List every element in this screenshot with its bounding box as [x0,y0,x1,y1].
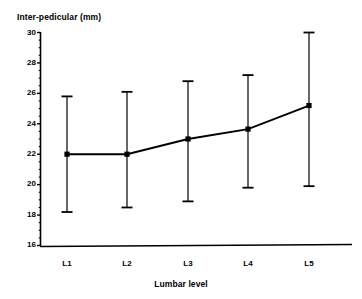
error-bar [304,33,315,187]
data-point-marker [245,127,250,132]
chart-figure: Inter-pedicular (mm) Lumbar level 30 28 … [0,0,362,299]
error-bar [122,92,133,208]
data-point-marker [64,152,69,157]
x-axis-line [40,245,352,247]
axis-lines [40,32,352,247]
data-point-marker [185,136,190,141]
plot-canvas [0,0,362,299]
data-point-marker [124,152,129,157]
data-series-layer [62,33,315,213]
data-point-marker [306,103,311,108]
